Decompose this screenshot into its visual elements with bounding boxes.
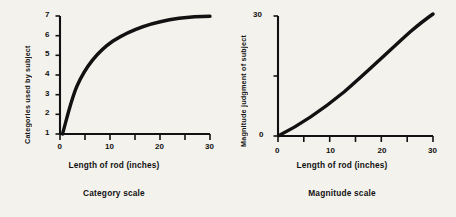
x-axis-title-left: Length of rod (inches) bbox=[0, 160, 228, 170]
category-scale-svg bbox=[55, 14, 215, 150]
y-tick-label-left-7: 7 bbox=[45, 10, 49, 19]
x-tick-label-left-10: 10 bbox=[105, 142, 114, 151]
y-tick-label-right-30: 30 bbox=[253, 10, 262, 19]
panel-category-scale: Categories used by subject bbox=[0, 0, 228, 217]
x-tick-label-right-30: 30 bbox=[428, 146, 437, 155]
magnitude-scale-curve bbox=[279, 14, 433, 136]
y-tick-label-right-0: 0 bbox=[259, 130, 263, 139]
panel-caption-left: Category scale bbox=[0, 188, 228, 198]
y-tick-label-left-1: 1 bbox=[45, 128, 49, 137]
x-tick-label-right-0: 0 bbox=[275, 146, 279, 155]
y-tick-label-left-5: 5 bbox=[45, 49, 49, 58]
x-tick-label-right-10: 10 bbox=[326, 146, 335, 155]
panel-caption-right: Magnitude scale bbox=[228, 188, 456, 198]
plot-area-category-scale bbox=[55, 14, 215, 150]
category-scale-curve bbox=[63, 16, 211, 134]
y-tick-label-left-4: 4 bbox=[45, 69, 49, 78]
x-tick-label-right-20: 20 bbox=[378, 146, 387, 155]
x-tick-label-left-20: 20 bbox=[155, 142, 164, 151]
y-axis-title-left: Categories used by subject bbox=[23, 18, 32, 144]
x-tick-label-left-0: 0 bbox=[58, 142, 62, 151]
y-tick-label-left-6: 6 bbox=[45, 30, 49, 39]
two-panel-figure: Categories used by subject bbox=[0, 0, 456, 217]
panel-magnitude-scale: Magnitude judgment of subject bbox=[228, 0, 456, 217]
y-axis-title-right: Magnitude judgment of subject bbox=[239, 12, 248, 147]
y-tick-label-left-3: 3 bbox=[45, 89, 49, 98]
y-tick-label-left-2: 2 bbox=[45, 108, 49, 117]
plot-area-magnitude-scale bbox=[270, 12, 440, 150]
magnitude-scale-svg bbox=[270, 12, 440, 150]
x-axis-title-right: Length of rod (inches) bbox=[228, 160, 456, 170]
x-tick-label-left-30: 30 bbox=[205, 142, 214, 151]
